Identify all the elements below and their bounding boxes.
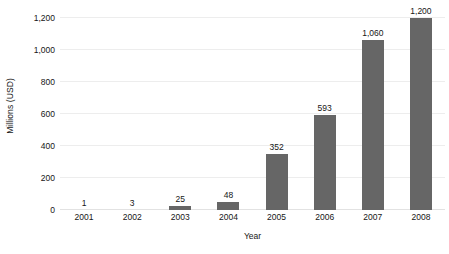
y-axis-tick-labels: 02004006008001,0001,200 — [20, 0, 58, 254]
plot-area: 1325483525931,0601,200 — [60, 18, 445, 210]
x-axis-tick-label: 2006 — [315, 212, 334, 222]
bar-value-label: 1,200 — [410, 7, 431, 16]
y-axis-tick-label: 400 — [41, 142, 55, 151]
y-axis-tick-label: 200 — [41, 174, 55, 183]
x-axis-tick-label: 2007 — [363, 212, 382, 222]
bar-group: 1,060 — [349, 18, 397, 210]
x-axis-title: Year — [60, 231, 445, 241]
bar-group: 352 — [253, 18, 301, 210]
y-axis-title: Millions (USD) — [0, 0, 20, 212]
y-axis-tick-label: 1,000 — [34, 46, 55, 55]
bar-group: 3 — [108, 18, 156, 210]
bar — [410, 18, 432, 210]
bars-layer: 1325483525931,0601,200 — [60, 18, 445, 210]
bar — [169, 206, 191, 210]
bar-group: 1 — [60, 18, 108, 210]
x-axis-tick-label: 2005 — [267, 212, 286, 222]
bar-group: 48 — [204, 18, 252, 210]
bar-value-label: 352 — [269, 143, 283, 152]
bar-value-label: 593 — [318, 104, 332, 113]
bar-group: 1,200 — [397, 18, 445, 210]
y-axis-tick-label: 0 — [50, 206, 55, 215]
bar-chart: Millions (USD) 02004006008001,0001,200 1… — [0, 0, 449, 254]
bar — [266, 154, 288, 210]
bar-value-label: 48 — [224, 191, 233, 200]
bar — [314, 115, 336, 210]
bar — [362, 40, 384, 210]
y-axis-tick-label: 1,200 — [34, 14, 55, 23]
x-axis-tick-label: 2002 — [123, 212, 142, 222]
bar-group: 593 — [301, 18, 349, 210]
bar-group: 25 — [156, 18, 204, 210]
bar — [217, 202, 239, 210]
x-axis-tick-labels: 20012002200320042005200620072008 — [60, 212, 445, 226]
bar-value-label: 3 — [130, 199, 135, 208]
bar-value-label: 1 — [82, 199, 87, 208]
y-axis-tick-label: 600 — [41, 110, 55, 119]
x-axis-tick-label: 2008 — [411, 212, 430, 222]
y-axis-tick-label: 800 — [41, 78, 55, 87]
bar-value-label: 1,060 — [362, 29, 383, 38]
y-axis-title-text: Millions (USD) — [5, 78, 15, 134]
x-axis-tick-label: 2003 — [171, 212, 190, 222]
x-axis-tick-label: 2001 — [75, 212, 94, 222]
x-axis-tick-label: 2004 — [219, 212, 238, 222]
bar-value-label: 25 — [176, 195, 185, 204]
